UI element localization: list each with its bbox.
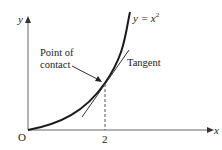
- point-of-contact-label-line2: contact: [40, 59, 70, 70]
- curve-exponent: 2: [156, 11, 160, 19]
- x-axis-label: x: [213, 124, 219, 136]
- y-axis-label: y: [17, 13, 23, 25]
- tangent-diagram: y x O 2 y = x2 Point of contact Tangent: [0, 0, 222, 150]
- tangent-label: Tangent: [127, 57, 161, 68]
- x-axis-arrow-icon: [207, 127, 214, 133]
- curve-equation: y = x: [132, 12, 156, 24]
- origin-label: O: [18, 131, 26, 143]
- pointer-arrow: [72, 66, 99, 80]
- y-axis-arrow-icon: [25, 16, 31, 23]
- x-tick-label: 2: [102, 133, 108, 145]
- point-of-contact-label-line1: Point of: [40, 47, 74, 58]
- curve-label: y = x2: [132, 11, 160, 24]
